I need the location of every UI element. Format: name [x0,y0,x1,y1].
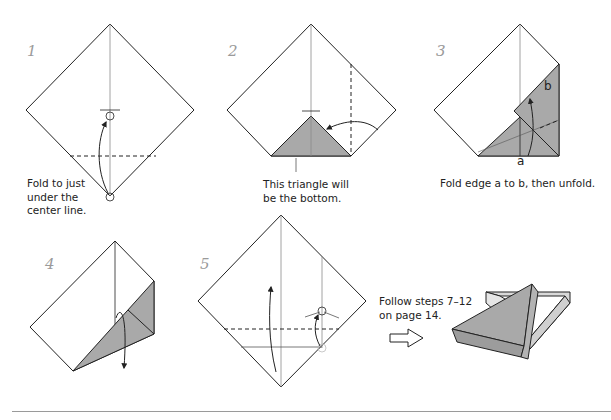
step-number-3: 3 [436,42,446,60]
diagram-canvas [0,0,611,420]
step-1-caption: Fold to just under the center line. [27,177,86,218]
step-number-1: 1 [27,42,37,60]
step-number-4: 4 [45,255,55,273]
caption-line: This triangle will [263,178,349,192]
caption-line: Fold to just [27,177,86,191]
caption-line: under the [27,191,86,205]
step-number-5: 5 [200,255,210,273]
bottom-divider [12,411,611,412]
final-caption: Follow steps 7–12 on page 14. [379,295,472,322]
caption-line: center line. [27,204,86,218]
caption-line: be the bottom. [263,192,349,206]
step-number-2: 2 [228,42,238,60]
step-1-diagram [26,24,194,201]
step-3-label-b: b [544,80,552,94]
caption-line: on page 14. [379,309,472,323]
step-3-diagram [434,24,559,156]
caption-line: Follow steps 7–12 [379,295,472,309]
hollow-right-arrow-icon [390,329,423,347]
step-2-diagram [227,24,396,172]
step-2-caption: This triangle will be the bottom. [263,178,349,205]
step-5-diagram [198,215,366,387]
step-3-caption: Fold edge a to b, then unfold. [440,177,595,191]
step-3-label-a: a [517,155,524,169]
